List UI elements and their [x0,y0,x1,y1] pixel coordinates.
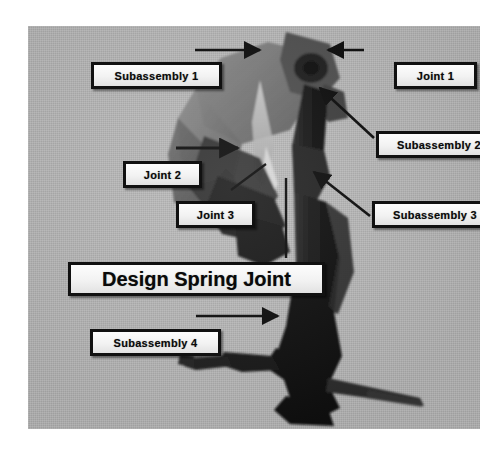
leader-joint-3 [231,164,266,190]
callout-joint-1: Joint 1 [394,62,477,89]
callout-subassembly-4: Subassembly 4 [90,329,221,356]
callout-joint-1-label: Joint 1 [417,70,455,82]
callout-subassembly-1: Subassembly 1 [91,62,222,89]
leader-subassembly-3 [314,172,370,216]
callout-design-spring-joint: Design Spring Joint [68,262,325,296]
robot-arm-photo-panel: Subassembly 1 Joint 1 Subassembly 2 Join… [28,26,480,429]
callout-joint-3-label: Joint 3 [197,209,235,221]
callout-subassembly-2-label: Subassembly 2 [397,139,480,151]
callout-subassembly-3: Subassembly 3 [372,201,480,228]
callout-joint-2-label: Joint 2 [144,169,182,181]
callout-subassembly-4-label: Subassembly 4 [114,337,198,349]
callout-subassembly-2: Subassembly 2 [376,131,480,158]
callout-joint-3: Joint 3 [176,201,255,228]
leader-subassembly-2 [320,88,374,138]
callout-joint-2: Joint 2 [123,161,202,188]
figure-root: Subassembly 1 Joint 1 Subassembly 2 Join… [0,0,501,452]
callout-subassembly-1-label: Subassembly 1 [115,70,199,82]
callout-design-spring-joint-label: Design Spring Joint [102,268,291,291]
callout-subassembly-3-label: Subassembly 3 [393,209,477,221]
